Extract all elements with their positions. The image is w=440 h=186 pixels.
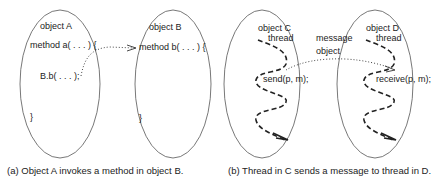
caption-a: (a) Object A invokes a method in object … [7,165,183,176]
object-a-method-line: method a( . . . ) { [30,40,97,50]
object-b-method-line: method b( . . . ) { [139,42,206,52]
object-c-thread-label: thread [268,33,294,43]
receive-line: receive(p, m); [376,74,431,84]
object-d-title: object D [366,23,400,33]
diagram-canvas: object A method a( . . . ) { B.b( . . . … [0,0,440,186]
object-b-close-brace: } [139,113,142,123]
caption-b: (b) Thread in C sends a message to threa… [228,165,431,176]
send-line: send(p, m); [263,74,309,84]
object-d-thread-label: thread [376,33,402,43]
message-object-label: object [316,46,341,56]
object-a-title: object A [40,21,72,31]
thread-d-path [364,40,395,140]
object-c-title: object C [258,23,292,33]
message-label: message [316,33,353,43]
object-a-call-line: B.b( . . . ); [40,71,80,81]
object-a-ellipse [20,10,100,158]
thread-c-arrowhead-icon [273,133,288,140]
thread-c-path [256,40,287,140]
object-a-close-brace: } [30,112,33,122]
object-b-ellipse [135,10,211,158]
thread-d-arrowhead-icon [381,133,396,140]
object-b-title: object B [149,22,182,32]
invocation-arrow [81,47,134,76]
